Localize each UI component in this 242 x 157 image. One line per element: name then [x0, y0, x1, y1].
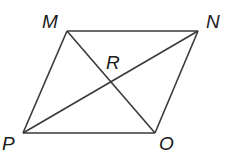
vertex-label-m: M [42, 11, 58, 32]
intersection-label-r: R [106, 52, 120, 73]
vertex-label-o: O [159, 133, 174, 154]
vertex-label-p: P [2, 133, 15, 154]
diagonal-np [23, 31, 198, 133]
side-no [155, 31, 198, 133]
vertex-label-n: N [206, 11, 220, 32]
parallelogram-diagram: M N R P O [0, 0, 242, 157]
side-pm [23, 31, 67, 133]
